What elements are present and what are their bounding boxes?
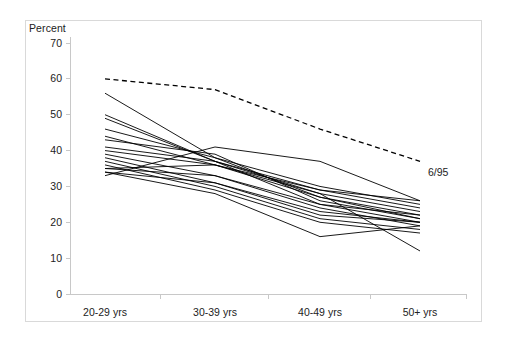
x-tick-label: 20-29 yrs bbox=[60, 307, 150, 318]
series-line bbox=[105, 147, 420, 222]
y-tick-label: 10 bbox=[32, 253, 62, 264]
series-annotation-label: 6/95 bbox=[428, 166, 448, 178]
y-tick-label: 0 bbox=[32, 289, 62, 300]
y-tick-label: 70 bbox=[32, 38, 62, 49]
y-tick-label: 20 bbox=[32, 217, 62, 228]
y-tick-label: 40 bbox=[32, 145, 62, 156]
x-tick-label: 30-39 yrs bbox=[170, 307, 260, 318]
x-tick-label: 50+ yrs bbox=[375, 307, 465, 318]
series-line bbox=[105, 115, 420, 208]
y-tick-label: 50 bbox=[32, 109, 62, 120]
y-tick-label: 30 bbox=[32, 181, 62, 192]
series-line bbox=[105, 165, 420, 251]
x-tick-label: 40-49 yrs bbox=[275, 307, 365, 318]
series-layer bbox=[105, 79, 420, 251]
series-line bbox=[105, 154, 420, 226]
line-chart: Percent 010203040506070 20-29 yrs30-39 y… bbox=[0, 0, 508, 340]
y-tick-label: 60 bbox=[32, 73, 62, 84]
